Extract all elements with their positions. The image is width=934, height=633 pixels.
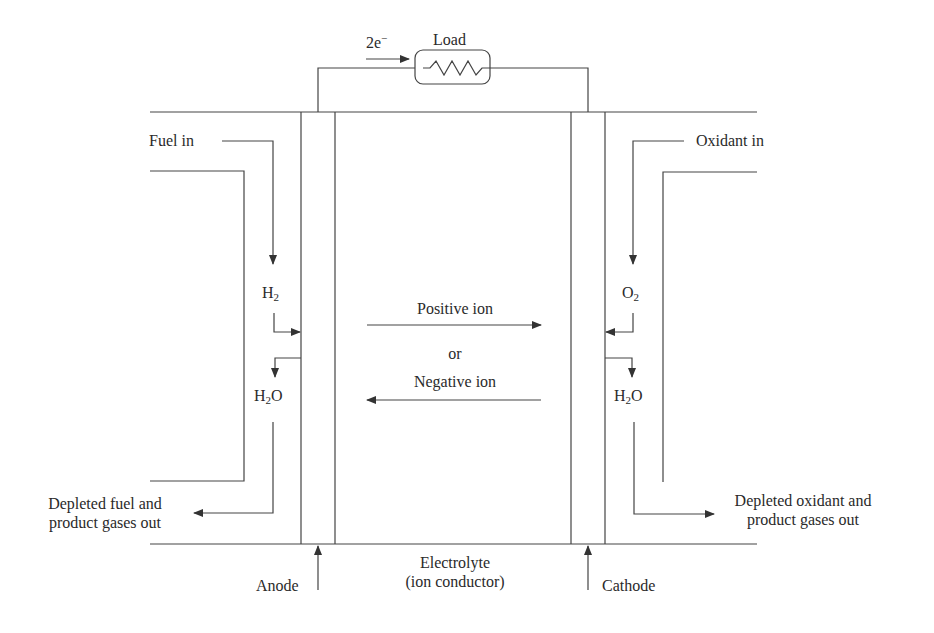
h2o-from-cathode-arrow bbox=[605, 358, 632, 377]
oxidant-channel-wall bbox=[663, 172, 757, 482]
oxidant-in-label: Oxidant in bbox=[696, 131, 764, 150]
resistor-icon bbox=[423, 61, 490, 75]
h2-to-anode-arrow bbox=[274, 313, 300, 332]
or-label: or bbox=[380, 344, 530, 363]
fuel-in-arrow bbox=[222, 141, 273, 264]
oxidant-in-arrow bbox=[633, 141, 684, 264]
positive-ion-label: Positive ion bbox=[380, 299, 530, 318]
load-box bbox=[415, 50, 490, 84]
fuel-exhaust-arrow bbox=[194, 422, 273, 513]
load-label: Load bbox=[433, 30, 466, 49]
h2o-cathode-label: H2O bbox=[614, 386, 643, 405]
oxidant-exhaust-arrow bbox=[634, 422, 714, 514]
fuel-exhaust-label: Depleted fuel and product gases out bbox=[30, 494, 180, 532]
circuit-wire bbox=[318, 68, 415, 112]
fuel-channel-wall bbox=[150, 171, 244, 481]
h2o-anode-label: H2O bbox=[254, 386, 283, 405]
anode-label: Anode bbox=[256, 576, 299, 595]
fuel-in-label: Fuel in bbox=[149, 131, 194, 150]
negative-ion-label: Negative ion bbox=[380, 372, 530, 391]
electrolyte-label: Electrolyte (ion conductor) bbox=[380, 553, 530, 591]
o2-label: O2 bbox=[622, 283, 639, 302]
h2-label: H2 bbox=[262, 283, 279, 302]
circuit-wire-right bbox=[490, 68, 588, 112]
oxidant-exhaust-label: Depleted oxidant and product gases out bbox=[718, 491, 888, 529]
o2-to-cathode-arrow bbox=[606, 313, 633, 332]
electron-label: 2e− bbox=[366, 33, 387, 52]
cathode-label: Cathode bbox=[602, 576, 655, 595]
h2o-from-anode-arrow bbox=[275, 358, 301, 377]
